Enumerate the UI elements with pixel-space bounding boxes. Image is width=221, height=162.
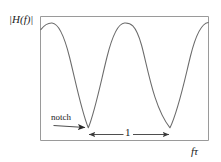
notch-filter-figure: |H(f)| fτ notch 1 xyxy=(0,0,221,162)
notch-arrow xyxy=(54,126,86,128)
period-span-label: 1 xyxy=(125,127,131,138)
y-axis-label: |H(f)| xyxy=(9,14,33,25)
x-axis-label: fτ xyxy=(191,146,198,157)
notch-annotation-label: notch xyxy=(51,113,71,122)
